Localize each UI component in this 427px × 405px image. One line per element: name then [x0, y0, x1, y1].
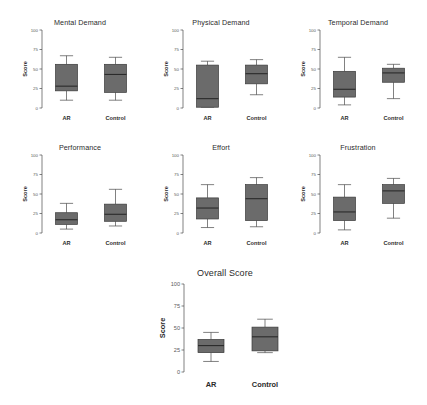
y-tick-label: 0	[177, 106, 180, 111]
panel-effort: Effort1007550250ScoreARControl	[155, 143, 287, 255]
y-tick-label: 50	[174, 192, 179, 197]
y-axis-label: Score	[22, 186, 28, 202]
y-tick-label: 0	[314, 231, 317, 236]
plot-area: 1007550250ScoreARControl	[14, 143, 146, 255]
box-body	[383, 185, 405, 204]
x-category-label: Control	[106, 115, 126, 121]
y-tick-label: 50	[33, 192, 38, 197]
y-axis-label: Score	[22, 61, 28, 77]
y-tick-label: 75	[311, 47, 316, 52]
y-tick-label: 75	[174, 303, 180, 309]
y-tick-label: 100	[309, 28, 317, 33]
x-category-label: AR	[62, 240, 70, 246]
panel-mental-demand: Mental Demand1007550250ScoreARControl	[14, 18, 146, 130]
y-tick-label: 25	[311, 211, 316, 216]
plot-area: 1007550250ScoreARControl	[155, 18, 287, 130]
y-tick-label: 50	[174, 67, 179, 72]
y-tick-label: 75	[33, 47, 38, 52]
box-control: Control	[252, 319, 278, 389]
y-tick-label: 0	[177, 231, 180, 236]
y-tick-label: 75	[33, 172, 38, 177]
plot-area: 1007550250ScoreARControl	[150, 268, 300, 398]
panel-title: Temporal Demand	[292, 18, 424, 27]
x-category-label: AR	[203, 240, 211, 246]
panel-title: Overall Score	[150, 268, 300, 278]
box-control: Control	[246, 60, 268, 121]
y-tick-label: 100	[309, 153, 317, 158]
box-body	[383, 68, 405, 82]
box-ar: AR	[334, 185, 356, 246]
box-control: Control	[383, 64, 405, 121]
panel-overall-score: Overall Score1007550250ScoreARControl	[150, 268, 300, 398]
y-tick-label: 100	[171, 281, 180, 287]
x-category-label: Control	[384, 240, 404, 246]
y-tick-label: 75	[174, 47, 179, 52]
box-control: Control	[105, 57, 127, 121]
box-ar: AR	[334, 57, 356, 121]
y-tick-label: 50	[174, 325, 180, 331]
box-body	[197, 65, 219, 107]
y-tick-label: 75	[311, 172, 316, 177]
y-tick-label: 0	[36, 231, 39, 236]
y-axis-label: Score	[300, 186, 306, 202]
box-ar: AR	[56, 56, 78, 121]
y-tick-label: 100	[172, 153, 180, 158]
y-tick-label: 0	[314, 106, 317, 111]
box-body	[334, 197, 356, 220]
x-category-label: Control	[252, 380, 278, 389]
y-tick-label: 25	[174, 86, 179, 91]
x-category-label: AR	[340, 240, 348, 246]
panel-title: Frustration	[292, 143, 424, 152]
box-body	[56, 64, 78, 91]
box-body	[56, 213, 78, 225]
box-ar: AR	[56, 203, 78, 246]
box-ar: AR	[198, 332, 224, 389]
x-category-label: Control	[106, 240, 126, 246]
y-tick-label: 25	[33, 86, 38, 91]
box-body	[105, 204, 127, 221]
boxplot-figure: Mental Demand1007550250ScoreARControlPhy…	[0, 0, 427, 405]
box-body	[246, 65, 268, 84]
y-tick-label: 100	[31, 153, 39, 158]
y-axis-label: Score	[163, 61, 169, 77]
box-control: Control	[105, 189, 127, 246]
y-axis-label: Score	[158, 318, 167, 339]
box-ar: AR	[197, 185, 219, 246]
y-tick-label: 0	[177, 369, 180, 375]
box-body	[252, 327, 278, 351]
x-category-label: AR	[203, 115, 211, 121]
y-tick-label: 50	[33, 67, 38, 72]
panel-title: Performance	[14, 143, 146, 152]
box-ar: AR	[197, 61, 219, 121]
box-body	[334, 71, 356, 97]
y-tick-label: 25	[311, 86, 316, 91]
y-tick-label: 50	[311, 67, 316, 72]
panel-title: Effort	[155, 143, 287, 152]
panel-physical-demand: Physical Demand1007550250ScoreARControl	[155, 18, 287, 130]
box-control: Control	[246, 178, 268, 246]
plot-area: 1007550250ScoreARControl	[14, 18, 146, 130]
box-control: Control	[383, 178, 405, 246]
panel-frustration: Frustration1007550250ScoreARControl	[292, 143, 424, 255]
x-category-label: AR	[206, 380, 217, 389]
panel-title: Mental Demand	[14, 18, 146, 27]
y-tick-label: 25	[174, 347, 180, 353]
x-category-label: Control	[247, 240, 267, 246]
y-tick-label: 25	[174, 211, 179, 216]
y-axis-label: Score	[163, 186, 169, 202]
panel-performance: Performance1007550250ScoreARControl	[14, 143, 146, 255]
y-tick-label: 75	[174, 172, 179, 177]
y-tick-label: 25	[33, 211, 38, 216]
plot-area: 1007550250ScoreARControl	[292, 143, 424, 255]
box-body	[105, 64, 127, 92]
y-axis-label: Score	[300, 61, 306, 77]
y-tick-label: 50	[311, 192, 316, 197]
y-tick-label: 0	[36, 106, 39, 111]
y-tick-label: 100	[172, 28, 180, 33]
panel-temporal-demand: Temporal Demand1007550250ScoreARControl	[292, 18, 424, 130]
plot-area: 1007550250ScoreARControl	[292, 18, 424, 130]
x-category-label: AR	[62, 115, 70, 121]
x-category-label: Control	[247, 115, 267, 121]
x-category-label: AR	[340, 115, 348, 121]
y-tick-label: 100	[31, 28, 39, 33]
